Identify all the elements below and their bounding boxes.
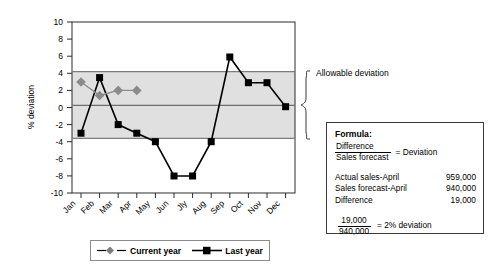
x-axis-ticks	[81, 193, 286, 198]
formula-calc-fraction: 19,000 940,000	[338, 216, 371, 237]
formula-row-label: Actual sales-April	[335, 172, 435, 184]
y-axis-tick-labels: 10 8 6 4 2 0 -2 -4 -6 -8 -10	[51, 17, 64, 198]
formula-title: Formula:	[335, 129, 476, 139]
y-tick-label: 0	[58, 103, 63, 113]
formula-row-value: 940,000	[435, 183, 477, 195]
table-row: Difference 19,000	[335, 195, 476, 207]
y-tick-label: -4	[55, 137, 63, 147]
x-tick-label-oct: Oct	[228, 198, 245, 215]
formula-ratio-equals: = Deviation	[396, 148, 438, 158]
formula-row-value: 959,000	[435, 172, 477, 184]
formula-ratio-denominator: Sales forecast	[335, 153, 391, 163]
formula-calc-denominator: 940,000	[338, 227, 371, 237]
x-tick-label-mar: Mar	[97, 198, 115, 216]
formula-row-value: 19,000	[435, 195, 477, 207]
x-tick-label-feb: Feb	[79, 198, 97, 216]
x-tick-label-nov: Nov	[246, 198, 264, 216]
legend-item-current-year: Current year	[97, 245, 181, 256]
table-row: Sales forecast-April 940,000	[335, 183, 476, 195]
x-tick-label-apr: Apr	[117, 198, 134, 215]
formula-row-label: Sales forecast-April	[335, 183, 435, 195]
x-tick-label-may: May	[133, 198, 152, 217]
y-tick-label: -6	[55, 154, 63, 164]
chart-legend: Current year Last year	[90, 240, 270, 261]
y-axis-title: % deviation	[26, 85, 36, 129]
y-tick-label: 2	[58, 85, 63, 95]
formula-ratio-row: Difference Sales forecast = Deviation	[335, 142, 476, 163]
y-tick-label: -2	[55, 120, 63, 130]
formula-ratio-fraction: Difference Sales forecast	[335, 142, 391, 163]
x-tick-label-jan: Jan	[61, 198, 78, 215]
y-tick-label: 4	[58, 68, 63, 78]
formula-calculation-row: 19,000 940,000 = 2% deviation	[335, 216, 476, 237]
x-tick-label-jly: Jly	[175, 198, 190, 213]
y-tick-label: 8	[58, 34, 63, 44]
table-row: Actual sales-April 959,000	[335, 172, 476, 184]
x-axis-month-labels: Jan Feb Mar Apr May Jun Jly Aug Sep Oct …	[61, 198, 283, 217]
x-tick-label-dec: Dec	[264, 198, 282, 216]
formula-calc-result: = 2% deviation	[377, 221, 432, 231]
square-marker-icon	[192, 245, 222, 256]
y-tick-label: -8	[55, 171, 63, 181]
y-tick-label: 6	[58, 51, 63, 61]
deviation-chart-figure: 10 8 6 4 2 0 -2 -4 -6 -8 -10 % deviation	[0, 0, 496, 269]
x-tick-label-sep: Sep	[208, 198, 226, 216]
formula-box: Formula: Difference Sales forecast = Dev…	[326, 122, 484, 234]
y-tick-label: -10	[51, 188, 64, 198]
allowable-deviation-brace	[301, 71, 310, 139]
diamond-marker-icon	[97, 245, 127, 256]
formula-values-table: Actual sales-April 959,000 Sales forecas…	[335, 172, 476, 207]
allowable-deviation-label: Allowable deviation	[316, 68, 389, 78]
x-tick-label-aug: Aug	[190, 198, 208, 216]
y-axis-ticks	[67, 22, 72, 193]
x-tick-label-jun: Jun	[154, 198, 171, 215]
formula-row-label: Difference	[335, 195, 435, 207]
legend-item-last-year: Last year	[192, 245, 263, 256]
legend-label-current-year: Current year	[130, 246, 181, 256]
y-tick-label: 10	[54, 17, 64, 27]
legend-label-last-year: Last year	[225, 246, 263, 256]
